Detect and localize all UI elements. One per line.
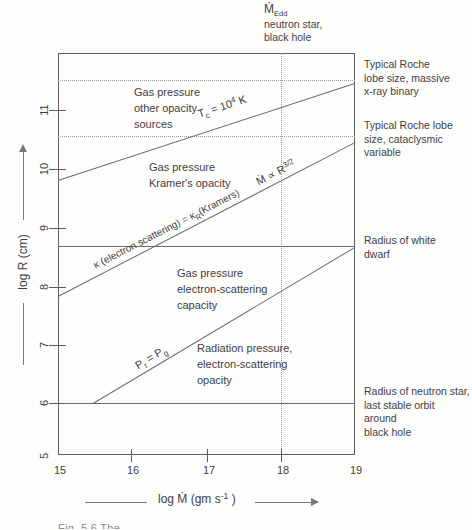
y-tick-7: [49, 345, 66, 346]
y-tick-8: [49, 287, 66, 288]
x-axis-title-mid: (gm s: [187, 492, 220, 506]
y-axis-title: log R (cm): [16, 234, 30, 289]
mdot-edd-subscript: Edd: [274, 9, 287, 18]
y-tick-10: [49, 169, 66, 170]
annotation-neutron-star-radius: Radius of neutron star, last stable orbi…: [364, 385, 470, 439]
x-axis-arrow-icon: [311, 498, 319, 506]
eddington-rate-annotation: ṀEdd neutron star, black hole: [264, 3, 322, 45]
y-tick-label: 6: [37, 393, 51, 413]
y-tick-label: 9: [37, 218, 51, 238]
x-tick-label: 17: [197, 464, 221, 476]
y-tick-11: [49, 110, 66, 111]
figure-caption-clipped: Fig. 5.6 The: [58, 522, 438, 529]
x-axis-title-post: ): [228, 492, 235, 506]
y-tick-label: 11: [37, 100, 51, 120]
x-tick-label: 19: [344, 464, 368, 476]
x-axis-line-segment: [85, 502, 147, 503]
neutron-star-radius-line: [58, 403, 355, 404]
eddington-mdot-dotted-line: [281, 53, 282, 451]
region-gas-pressure-other-opacity: Gas pressure other opacity sources: [134, 84, 200, 132]
x-axis-arrow-shaft: [255, 502, 311, 503]
y-tick-6: [49, 403, 66, 404]
x-tick-16: [131, 449, 132, 462]
y-tick-label: 7: [37, 335, 51, 355]
x-tick-17: [207, 449, 208, 462]
x-tick-label: 15: [48, 464, 72, 476]
y-tick-label: 8: [37, 277, 51, 297]
x-tick-label: 16: [121, 464, 145, 476]
y-axis-arrow-icon: [19, 144, 27, 152]
annotation-roche-massive-xray-binary: Typical Roche lobe size, massive x-ray b…: [364, 58, 470, 99]
y-tick-label: 5: [37, 446, 51, 466]
roche-lobe-cv-dotted-line: [58, 136, 355, 137]
roche-lobe-massive-dotted-line: [58, 80, 355, 81]
white-dwarf-radius-line: [58, 246, 355, 247]
y-tick-label: 10: [37, 159, 51, 179]
annotation-white-dwarf-radius: Radius of white dwarf: [364, 234, 470, 261]
eddington-rate-text: neutron star, black hole: [264, 18, 322, 45]
x-tick-18: [281, 449, 282, 462]
region-gas-pressure-kramers: Gas pressure Kramer's opacity: [149, 159, 231, 191]
mdot-edd-symbol: Ṁ: [264, 2, 274, 16]
y-axis-line-segment: [23, 303, 24, 365]
region-gas-pressure-electron-scattering: Gas pressure electron-scattering capacit…: [177, 265, 268, 313]
region-radiation-pressure: Radiation pressure, electron-scattering …: [197, 340, 292, 388]
x-tick-label: 18: [271, 464, 295, 476]
y-tick-9: [49, 228, 66, 229]
y-axis-arrow-shaft: [23, 152, 24, 220]
annotation-roche-cataclysmic-variable: Typical Roche lobe size, cataclysmic var…: [364, 119, 470, 160]
x-axis-title: log Ṁ (gm s-1 ): [158, 492, 236, 506]
x-axis-title-pre: log: [158, 492, 177, 506]
x-axis-title-sup: -1: [221, 491, 229, 501]
accretion-disc-regimes-figure: 11 10 9 8 7 6 5 15 16 17 18 19 log R (cm…: [0, 0, 472, 530]
mdot-symbol: Ṁ: [177, 492, 187, 506]
